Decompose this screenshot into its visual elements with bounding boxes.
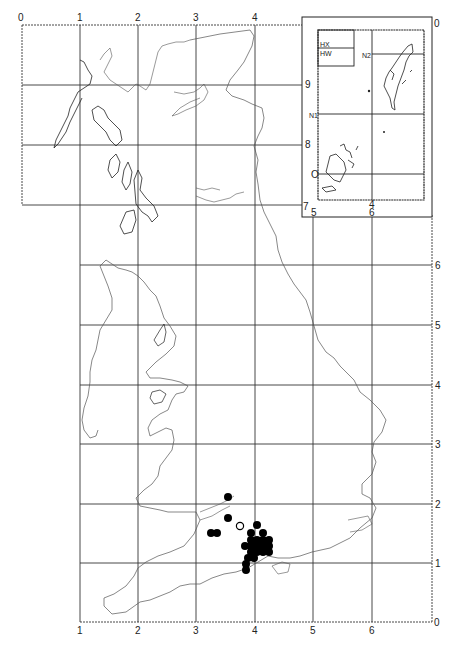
inset-label-n1: N1 [309,112,318,119]
right-axis-label-4: 4 [435,381,441,391]
top-axis-label-2: 2 [135,13,141,23]
forth-clyde [196,188,244,202]
inset-square-hx: HX [320,41,330,48]
top-axis-label-0: 0 [18,13,24,23]
bottom-axis-label-4: 4 [252,626,258,636]
inset-square-hw: HW [320,50,332,57]
top-axis-label-3: 3 [193,13,199,23]
frame-label-7: 7 [303,202,309,212]
bottom-axis-label-5: 5 [310,626,316,636]
bottom-axis-label-6: 6 [369,626,375,636]
isle-of-wight [272,562,290,574]
distribution-map [0,0,456,653]
top-right-label: 0 [434,19,440,29]
bottom-axis-label-3: 3 [193,626,199,636]
right-axis-label-1: 1 [435,559,441,569]
inset-label-6: 6 [369,208,375,218]
right-axis-label-3: 3 [435,440,441,450]
bottom-axis-label-2: 2 [135,626,141,636]
fair-isle-dot [368,90,370,92]
bottom-right-label: 0 [434,618,440,628]
inset-dot [383,131,385,133]
inset-label-n2: N2 [362,52,371,59]
frame-label-9: 9 [305,80,311,90]
coastline-west-scotland [92,106,158,234]
bottom-axis-label-1: 1 [77,626,83,636]
top-axis-label-1: 1 [77,13,83,23]
record-open-circle [236,522,243,529]
right-axis-label-5: 5 [435,321,441,331]
right-axis-label-6: 6 [435,261,441,271]
isle-of-man [154,324,166,346]
coastline-hebrides [54,60,92,148]
moray-firth [172,84,208,116]
anglesey [150,390,166,404]
coastline-north-scotland [100,40,190,92]
inset-label-5: 5 [311,208,317,218]
right-axis-label-2: 2 [435,500,441,510]
thames-estuary [348,516,372,532]
top-axis-label-4: 4 [252,13,258,23]
frame-label-8: 8 [305,140,311,150]
inset-label-o: O [311,170,319,180]
